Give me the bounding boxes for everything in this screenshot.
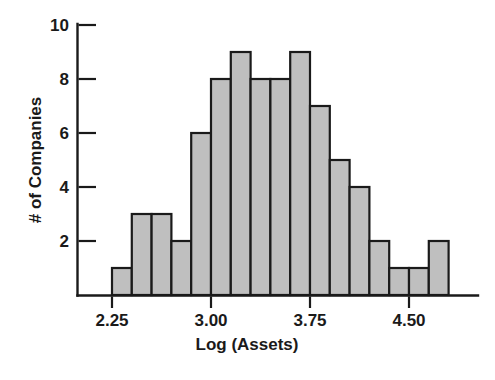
- x-axis-tick-labels: 2.253.003.754.50: [95, 311, 425, 330]
- y-axis-tick-label: 4: [60, 178, 70, 197]
- y-axis-ticks: [79, 25, 97, 241]
- histogram-figure: 246810 2.253.003.754.50 Log (Assets) # o…: [0, 0, 495, 380]
- histogram-bar: [132, 214, 152, 295]
- x-axis-title: Log (Assets): [196, 335, 299, 354]
- histogram-bar: [330, 160, 350, 295]
- histogram-bar: [429, 241, 449, 295]
- histogram-bar: [211, 79, 231, 295]
- histogram-plot: 246810 2.253.003.754.50 Log (Assets) # o…: [0, 0, 495, 380]
- y-axis-tick-label: 6: [60, 124, 69, 143]
- histogram-bar: [171, 241, 191, 295]
- x-axis-tick-label: 4.50: [392, 311, 425, 330]
- y-axis-tick-label: 2: [60, 232, 69, 251]
- histogram-bar: [270, 79, 290, 295]
- histogram-bar: [409, 268, 429, 295]
- histogram-bar: [152, 214, 172, 295]
- histogram-bar: [251, 79, 271, 295]
- y-axis-tick-label: 8: [60, 70, 69, 89]
- histogram-bar: [231, 52, 251, 295]
- y-axis-title: # of Companies: [26, 97, 45, 224]
- histogram-bar: [369, 241, 389, 295]
- histogram-bar: [310, 106, 330, 295]
- bars-group: [112, 52, 449, 295]
- histogram-bar: [350, 187, 370, 295]
- x-axis-tick-label: 2.25: [95, 311, 128, 330]
- histogram-bar: [290, 52, 310, 295]
- histogram-bar: [112, 268, 132, 295]
- x-axis-ticks: [112, 297, 409, 309]
- y-axis-tick-labels: 246810: [50, 16, 69, 251]
- histogram-bar: [191, 133, 211, 295]
- histogram-bar: [389, 268, 409, 295]
- x-axis-tick-label: 3.00: [194, 311, 227, 330]
- x-axis-tick-label: 3.75: [293, 311, 326, 330]
- y-axis-tick-label: 10: [50, 16, 69, 35]
